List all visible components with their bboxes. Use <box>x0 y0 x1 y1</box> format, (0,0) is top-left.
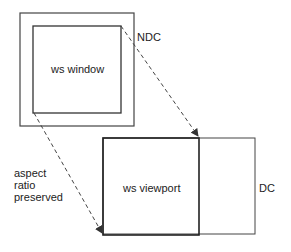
ws-viewport-label: ws viewport <box>123 182 180 194</box>
dc-label: DC <box>259 182 275 194</box>
aspect-label-2: ratio <box>14 179 35 191</box>
ws-window-label: ws window <box>51 63 104 75</box>
aspect-label-3: preserved <box>14 191 63 203</box>
ndc-label: NDC <box>137 31 161 43</box>
aspect-label-1: aspect <box>14 167 46 179</box>
